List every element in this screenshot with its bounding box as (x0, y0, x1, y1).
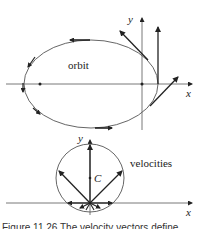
y-axis-label-top: y (127, 13, 133, 25)
velocity-vector (150, 77, 178, 106)
focus-dot (39, 83, 42, 86)
velocities-label: velocities (130, 157, 172, 169)
center-label: C (94, 172, 102, 184)
figure-caption: Figure 11.26 The velocity vectors define (2, 222, 179, 229)
x-axis-label-top: x (185, 87, 191, 99)
velocity-vector (59, 171, 90, 203)
velocity-arrow (28, 57, 35, 67)
orbit-panel: y x orbit (6, 13, 192, 130)
velocity-arrow (33, 108, 40, 114)
orbit-diagram: y x orbit y x C velocities Figure 11.26 … (0, 0, 200, 229)
focus-dot (141, 83, 144, 86)
orbit-label: orbit (68, 59, 89, 71)
velocities-panel: y x C velocities (6, 132, 192, 218)
y-axis-label-bottom: y (77, 132, 83, 144)
x-axis-label-bottom: x (185, 206, 191, 218)
